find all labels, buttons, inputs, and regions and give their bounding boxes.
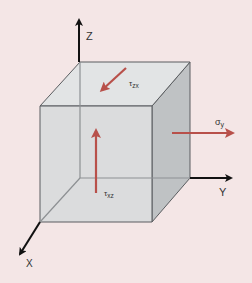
z-axis-label: Z [86, 30, 93, 42]
y-axis-label: Y [219, 186, 227, 198]
x-axis-label: X [26, 258, 33, 269]
stress-cube-diagram: Z Y X τzx τxz σy [0, 0, 252, 283]
sigma-y-label: σy [215, 117, 225, 129]
stress-element-cube [40, 62, 190, 222]
x-axis [20, 222, 40, 254]
